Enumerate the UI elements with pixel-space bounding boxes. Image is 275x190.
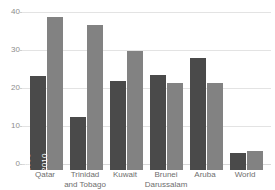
x-axis-label-trinidad-and-tobago-line2: and Tobago — [58, 180, 112, 190]
bar-aruba-1990 — [190, 58, 206, 171]
x-axis-label-brunei-darussalam-line2: Darussalam — [136, 180, 196, 190]
bar-kuwait-2010 — [127, 51, 143, 170]
y-tick-label-40: 40 — [4, 8, 20, 16]
bar-brunei-darussalam-2010 — [167, 83, 183, 170]
y-tick-label-0: 0 — [4, 160, 20, 168]
bar-kuwait-1990 — [110, 81, 126, 170]
bar-world-2010 — [247, 151, 263, 170]
gridline-40 — [22, 12, 271, 13]
y-axis: 40 30 20 10 0 — [0, 0, 20, 190]
x-axis-label-world: World — [220, 170, 270, 180]
x-axis-label-world-line1: World — [220, 170, 270, 180]
y-tick-label-10: 10 — [4, 122, 20, 130]
bar-trinidad-and-tobago-1990 — [70, 117, 86, 170]
bar-brunei-darussalam-1990 — [150, 75, 166, 170]
plot-area: 1990 2010 — [22, 6, 271, 170]
bar-aruba-2010 — [207, 83, 223, 170]
bar-qatar-2010 — [47, 17, 63, 170]
bar-chart: 40 30 20 10 0 1990 2010 — [0, 0, 275, 190]
y-tick-label-20: 20 — [4, 84, 20, 92]
y-tick-label-30: 30 — [4, 46, 20, 54]
bar-world-1990 — [230, 153, 246, 170]
bar-trinidad-and-tobago-2010 — [87, 25, 103, 170]
